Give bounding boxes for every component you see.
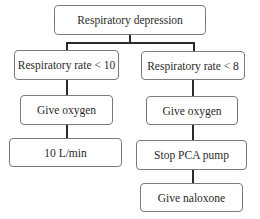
connector-left-2 (66, 125, 68, 138)
node-label: Stop PCA pump (154, 149, 229, 161)
connector-left-branch-down (66, 42, 68, 50)
node-respiratory-rate-lt-8: Respiratory rate < 8 (141, 51, 245, 80)
connector-right-3 (192, 170, 194, 183)
node-give-naloxone: Give naloxone (140, 183, 243, 212)
node-10-l-min: 10 L/min (9, 138, 122, 167)
connector-right-branch-down (193, 42, 195, 51)
node-respiratory-rate-lt-10: Respiratory rate < 10 (14, 50, 119, 80)
node-label: Respiratory depression (77, 14, 183, 26)
node-label: 10 L/min (44, 147, 87, 159)
node-label: Give oxygen (37, 104, 96, 116)
node-right-give-oxygen: Give oxygen (146, 96, 238, 125)
node-label: Respiratory rate < 8 (147, 60, 239, 72)
connector-right-1 (192, 80, 194, 96)
node-stop-pca-pump: Stop PCA pump (136, 140, 247, 170)
connector-branch-horizontal (66, 42, 195, 44)
connector-left-1 (66, 80, 68, 95)
node-left-give-oxygen: Give oxygen (20, 95, 113, 125)
node-respiratory-depression: Respiratory depression (54, 5, 206, 35)
node-label: Give naloxone (158, 192, 225, 204)
node-label: Respiratory rate < 10 (18, 59, 116, 71)
node-label: Give oxygen (162, 105, 221, 117)
connector-right-2 (192, 125, 194, 140)
